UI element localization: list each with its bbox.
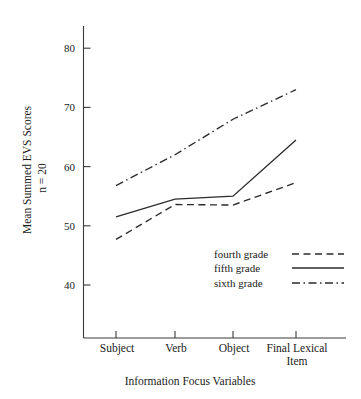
legend-label-fifth-grade: fifth grade — [214, 262, 260, 274]
legend: fourth grade fifth grade sixth grade — [214, 248, 344, 289]
y-tick-label-80: 80 — [64, 42, 76, 54]
x-axis-title: Information Focus Variables — [125, 375, 256, 387]
y-tick-label-70: 70 — [64, 101, 76, 113]
x-tick-label-object: Object — [219, 342, 250, 355]
legend-label-fourth-grade: fourth grade — [214, 248, 268, 260]
y-tick-label-60: 60 — [64, 161, 76, 173]
series-line-fourth-grade — [116, 183, 296, 240]
x-tick-label-verb: Verb — [165, 342, 187, 354]
y-tick-group — [84, 48, 91, 285]
series-line-sixth-grade — [116, 90, 296, 186]
y-axis-title: Mean Summed EVS Scores — [21, 105, 33, 234]
y-tick-label-40: 40 — [64, 279, 76, 291]
x-tick-group — [116, 331, 296, 338]
y-axis-note: n = 20 — [36, 163, 48, 193]
line-chart-svg: 40 50 60 70 80 Subject Verb Object Final… — [0, 0, 361, 399]
chart-figure: 40 50 60 70 80 Subject Verb Object Final… — [0, 0, 361, 399]
x-tick-label-subject: Subject — [100, 342, 135, 355]
series-line-fifth-grade — [116, 140, 296, 217]
x-tick-label-final-lexical: Final Lexical — [267, 342, 328, 354]
y-tick-label-50: 50 — [64, 220, 76, 232]
x-tick-label-item: Item — [286, 355, 307, 367]
legend-label-sixth-grade: sixth grade — [214, 277, 263, 289]
